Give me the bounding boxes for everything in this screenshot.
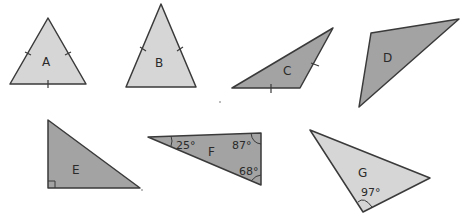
angle-label: 68° (239, 165, 259, 178)
dot (141, 189, 143, 191)
triangle-e: E (48, 120, 140, 188)
triangle-d-label: D (383, 51, 392, 65)
triangle-c-shape (232, 28, 333, 88)
triangle-b-label: B (155, 56, 163, 70)
triangle-a-shape (10, 18, 86, 84)
triangle-g-shape (310, 130, 430, 212)
triangle-d: D (359, 19, 459, 107)
triangle-f: 25° 87° 68° F (141, 133, 261, 191)
angle-label: 87° (232, 139, 252, 152)
triangle-b: B (126, 4, 196, 87)
triangle-c-label: C (283, 64, 291, 78)
triangle-e-shape (48, 120, 140, 188)
triangle-e-label: E (72, 163, 80, 177)
angle-label: 97° (361, 186, 381, 199)
triangle-a-label: A (42, 55, 51, 69)
triangle-f-label: F (208, 145, 215, 159)
triangle-d-shape (359, 19, 459, 107)
triangle-b-shape (126, 4, 196, 87)
triangle-g: 97° G (310, 130, 430, 212)
angle-label: 25° (176, 139, 196, 152)
triangle-a: A (10, 18, 86, 88)
triangle-g-label: G (358, 166, 367, 180)
triangle-diagram: A B C D E 25° 87° 68° F (0, 0, 462, 216)
triangle-c: C (219, 28, 333, 103)
dot (219, 101, 221, 103)
